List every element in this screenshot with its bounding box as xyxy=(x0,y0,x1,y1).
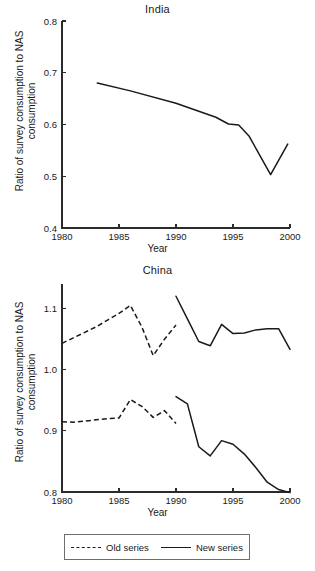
y-tick-label: 0.6 xyxy=(44,119,57,130)
legend-label-new-series: New series xyxy=(196,542,243,553)
y-tick-label: 0.9 xyxy=(44,425,57,436)
y-tick-label: 0.7 xyxy=(44,67,57,78)
data-series-line xyxy=(176,397,290,493)
x-tick-label: 1985 xyxy=(108,231,129,242)
chart-title-china: China xyxy=(0,264,315,276)
legend-entry-old-series: Old series xyxy=(71,542,149,553)
x-tick-label: 2000 xyxy=(279,495,300,506)
x-axis-label-china: Year xyxy=(0,507,315,518)
y-axis-label-line1: Ratio of survey consumption to NAS xyxy=(14,31,25,192)
chart-svg-china: 198019851990199520000.80.91.01.1 xyxy=(0,258,315,571)
figure-container: India Ratio of survey consumption to NAS… xyxy=(0,0,315,571)
data-series-line xyxy=(62,400,176,424)
y-axis-label-china: Ratio of survey consumption to NAS consu… xyxy=(14,284,38,480)
y-axis-label-india: Ratio of survey consumption to NAS consu… xyxy=(14,16,38,206)
x-tick-label: 1985 xyxy=(108,495,129,506)
y-tick-label: 0.4 xyxy=(44,223,57,234)
x-tick-label: 1990 xyxy=(165,495,186,506)
x-axis-label-india: Year xyxy=(0,243,315,254)
y-tick-label: 1.0 xyxy=(44,364,57,375)
y-axis-label-line1: Ratio of survey consumption to NAS xyxy=(14,302,25,463)
chart-panel-india: India Ratio of survey consumption to NAS… xyxy=(0,0,315,258)
data-series-line xyxy=(62,305,176,355)
x-tick-label: 2000 xyxy=(279,231,300,242)
y-tick-label: 1.1 xyxy=(44,303,57,314)
y-axis-label-line2: consumption xyxy=(26,284,38,480)
chart-title-india: India xyxy=(0,3,315,15)
dashed-line-icon xyxy=(71,547,101,548)
y-axis-label-line2: consumption xyxy=(26,16,38,206)
legend-entry-new-series: New series xyxy=(161,542,243,553)
solid-line-icon xyxy=(161,547,191,548)
y-tick-label: 0.5 xyxy=(44,171,57,182)
x-tick-label: 1995 xyxy=(222,495,243,506)
chart-svg-india: 198019851990199520000.40.50.60.70.8 xyxy=(0,0,315,258)
y-tick-label: 0.8 xyxy=(44,16,57,27)
data-series-line xyxy=(97,83,287,175)
y-tick-label: 0.8 xyxy=(44,487,57,498)
x-tick-label: 1995 xyxy=(222,231,243,242)
data-series-line xyxy=(176,296,290,349)
x-tick-label: 1990 xyxy=(165,231,186,242)
chart-panel-china: China Ratio of survey consumption to NAS… xyxy=(0,258,315,571)
legend-label-old-series: Old series xyxy=(106,542,149,553)
legend: Old series New series xyxy=(64,534,250,560)
